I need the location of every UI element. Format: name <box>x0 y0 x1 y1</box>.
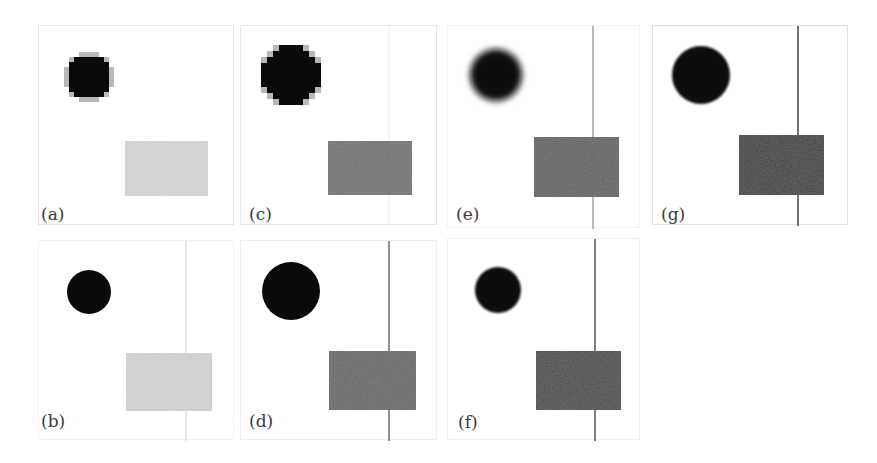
gray-rectangle <box>126 353 212 411</box>
panel-c-image <box>241 26 438 226</box>
gray-rectangle <box>328 141 412 195</box>
panel-label: (f) <box>458 414 478 431</box>
soft-circle <box>475 267 521 313</box>
panel-b-image <box>39 241 235 441</box>
gray-rectangle <box>739 135 824 195</box>
gray-rectangle <box>534 137 619 197</box>
panel-f-image <box>448 239 641 441</box>
panel-label: (a) <box>41 206 64 223</box>
gray-rectangle <box>125 141 208 196</box>
panel-label: (c) <box>249 206 272 223</box>
pixelated-circle <box>64 52 114 102</box>
panel-c: (c) <box>240 25 437 225</box>
panel-f: (f) <box>447 238 640 440</box>
gray-rectangle <box>329 351 416 410</box>
pixelated-circle <box>261 45 321 105</box>
gray-rectangle <box>536 351 621 410</box>
panel-a: (a) <box>38 25 234 225</box>
panel-a-image <box>39 26 235 226</box>
panel-g-image <box>653 26 849 226</box>
panel-d: (d) <box>240 240 437 440</box>
soft-circle <box>672 46 730 104</box>
smooth-circle <box>262 262 320 320</box>
panel-label: (g) <box>661 206 685 223</box>
panel-label: (b) <box>41 413 65 430</box>
panel-b: (b) <box>38 240 234 440</box>
panel-label: (d) <box>249 413 273 430</box>
panel-g: (g) <box>652 25 848 225</box>
panel-e-image <box>448 26 641 229</box>
panel-e: (e) <box>447 25 640 228</box>
smooth-circle <box>67 270 111 314</box>
blurred-circle <box>470 49 522 101</box>
panel-label: (e) <box>456 206 479 223</box>
